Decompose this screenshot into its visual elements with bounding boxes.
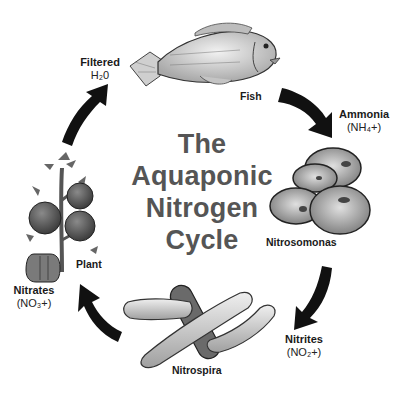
curved-arrow-icon [62,84,108,146]
nitrates-label: Nitrates (NO₃+) [4,284,64,309]
title-line-2: Aquaponic [118,160,286,192]
nitrites-label: Nitrites (NO₂+) [276,333,332,358]
title-line-4: Cycle [118,224,286,256]
stage-formula: H₂0 [70,69,130,82]
stage-formula: (NO₃+) [4,297,64,310]
nitrogen-cycle-diagram: The Aquaponic Nitrogen Cycle Filtered H₂… [0,0,401,397]
stage-name: Filtered [70,56,130,69]
stage-name: Nitrites [276,333,332,346]
nitrospira-icon [124,282,275,368]
stage-name: Ammonia [332,108,396,121]
nitrospira-caption: Nitrospira [172,364,222,376]
curved-arrow-icon [278,88,332,138]
title-line-3: Nitrogen [118,192,286,224]
stage-name: Nitrates [4,284,64,297]
filtered-water-label: Filtered H₂0 [70,56,130,81]
stage-formula: (NO₂+) [276,346,332,359]
diagram-title: The Aquaponic Nitrogen Cycle [118,128,286,256]
plant-caption: Plant [76,258,102,270]
fish-icon [130,23,280,86]
curved-arrow-icon [78,284,122,342]
stage-formula: (NH₄+) [332,121,396,134]
fish-caption: Fish [240,90,262,102]
title-line-1: The [118,128,286,160]
curved-arrow-icon [294,266,332,330]
nitrosomonas-caption: Nitrosomonas [266,236,337,248]
ammonia-label: Ammonia (NH₄+) [332,108,396,133]
